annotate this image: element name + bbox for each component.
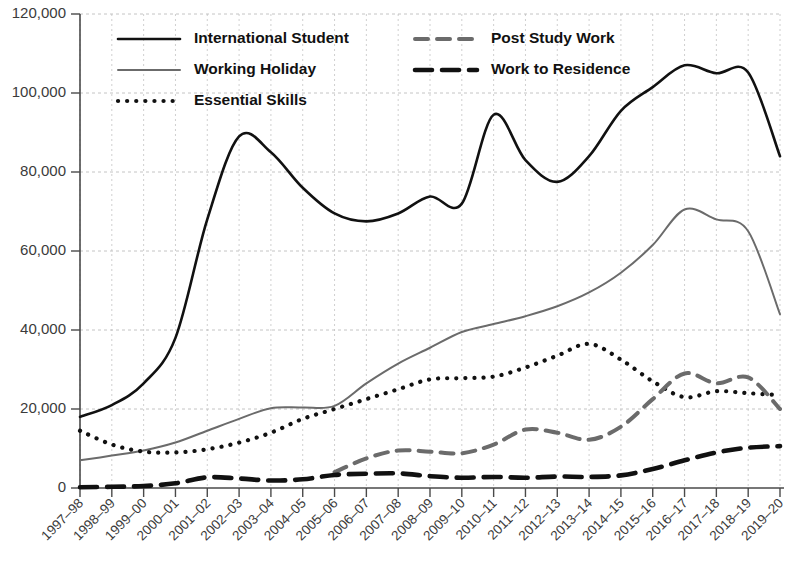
y-axis-tick-label: 80,000: [20, 162, 66, 179]
y-axis-ticks: [71, 14, 80, 488]
x-axis-labels: 1997–981998–991999–002000–012001–022002–…: [38, 495, 786, 543]
y-axis-labels: 020,00040,00060,00080,000100,000120,000: [12, 4, 66, 495]
legend-label: Post Study Work: [491, 29, 615, 46]
legend-label: Essential Skills: [194, 91, 307, 108]
legend-label: Working Holiday: [194, 60, 316, 77]
chart-canvas: 020,00040,00060,00080,000100,000120,000 …: [0, 0, 795, 566]
legend-label: International Student: [194, 29, 349, 46]
x-axis-ticks: [80, 488, 780, 497]
chart-legend: International StudentWorking HolidayEsse…: [118, 29, 631, 108]
y-axis-tick-label: 100,000: [12, 83, 66, 100]
legend-entry-international-student[interactable]: International Student: [118, 29, 349, 46]
y-axis-tick-label: 120,000: [12, 4, 66, 21]
y-axis-tick-label: 40,000: [20, 320, 66, 337]
y-axis-tick-label: 0: [58, 478, 66, 495]
legend-label: Work to Residence: [491, 60, 631, 77]
chart-axes: [80, 14, 784, 488]
line-chart: 020,00040,00060,00080,000100,000120,000 …: [0, 0, 795, 566]
y-axis-tick-label: 60,000: [20, 241, 66, 258]
y-axis-tick-label: 20,000: [20, 399, 66, 416]
legend-entry-working-holiday[interactable]: Working Holiday: [118, 60, 316, 77]
legend-entry-essential-skills[interactable]: Essential Skills: [118, 91, 307, 108]
legend-entry-work-to-residence[interactable]: Work to Residence: [415, 60, 631, 77]
legend-entry-post-study-work[interactable]: Post Study Work: [415, 29, 615, 46]
data-series: [80, 65, 780, 487]
